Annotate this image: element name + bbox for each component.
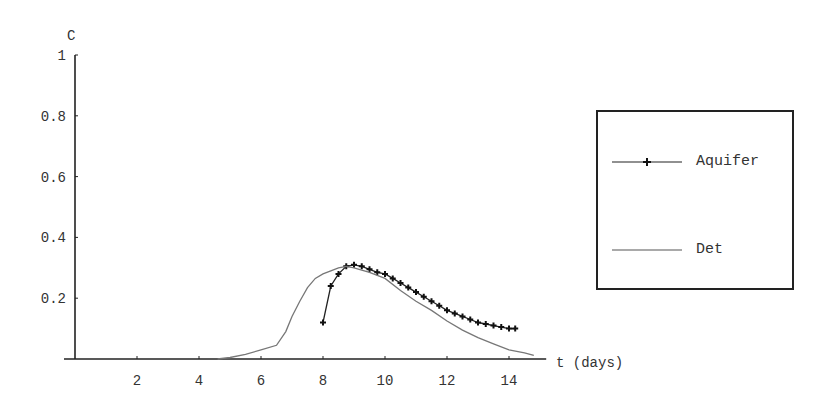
- y-tick-label: 0.4: [41, 230, 66, 246]
- series-aquifer: [323, 265, 515, 329]
- x-tick-label: 8: [319, 373, 327, 389]
- data-point-marker: [452, 310, 458, 316]
- data-point-marker: [413, 289, 419, 295]
- legend-item-aquifer: Aquifer: [612, 153, 759, 170]
- data-point-marker: [506, 326, 512, 332]
- data-point-marker: [382, 271, 388, 277]
- legend-label: Det: [696, 241, 723, 258]
- data-point-marker: [483, 321, 489, 327]
- x-axis-label: t (days): [556, 355, 623, 371]
- data-point-marker: [359, 263, 365, 269]
- data-point-marker: [429, 298, 435, 304]
- x-tick-label: 14: [501, 373, 518, 389]
- y-axis-label: C: [67, 28, 75, 44]
- data-point-marker: [390, 275, 396, 281]
- legend: Aquifer Det: [596, 110, 794, 290]
- x-tick-label: 6: [257, 373, 265, 389]
- axes: 24681012140.20.40.60.81: [41, 48, 546, 389]
- legend-label: Aquifer: [696, 153, 759, 170]
- x-tick-label: 4: [195, 373, 203, 389]
- y-tick-label: 0.6: [41, 170, 66, 186]
- data-point-marker: [498, 324, 504, 330]
- data-point-marker: [320, 320, 326, 326]
- data-point-marker: [467, 316, 473, 322]
- line-with-marker-icon: [612, 155, 682, 169]
- x-tick-label: 10: [377, 373, 394, 389]
- y-tick-label: 1: [58, 48, 66, 64]
- data-point-marker: [491, 323, 497, 329]
- data-point-marker: [512, 326, 518, 332]
- plot-series: [218, 262, 534, 359]
- data-point-marker: [421, 294, 427, 300]
- y-tick-label: 0.2: [41, 291, 66, 307]
- x-tick-label: 12: [439, 373, 456, 389]
- series-det: [218, 266, 534, 359]
- x-tick-label: 2: [133, 373, 141, 389]
- legend-item-det: Det: [612, 241, 723, 258]
- data-point-marker: [405, 285, 411, 291]
- y-tick-label: 0.8: [41, 109, 66, 125]
- data-point-marker: [460, 313, 466, 319]
- data-point-marker: [436, 303, 442, 309]
- data-point-marker: [475, 320, 481, 326]
- data-point-marker: [444, 307, 450, 313]
- data-point-marker: [398, 280, 404, 286]
- line-icon: [612, 243, 682, 257]
